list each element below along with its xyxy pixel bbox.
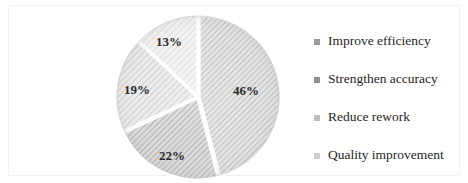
legend-item-improve-efficiency[interactable]: Improve efficiency xyxy=(314,32,464,50)
legend-swatch-icon xyxy=(314,39,320,45)
legend-label: Quality improvement xyxy=(328,148,444,162)
legend-item-reduce-rework[interactable]: Reduce rework xyxy=(314,108,464,126)
chart-legend: Improve efficiency Strengthen accuracy R… xyxy=(314,32,464,164)
legend-label: Strengthen accuracy xyxy=(328,72,438,86)
slice-label-quality-improvement: 13% xyxy=(156,34,182,50)
legend-item-quality-improvement[interactable]: Quality improvement xyxy=(314,146,464,164)
legend-label: Improve efficiency xyxy=(328,34,431,48)
legend-label: Reduce rework xyxy=(328,110,410,124)
legend-swatch-icon xyxy=(314,77,320,83)
pie-chart-area: 46% 22% 19% 13% xyxy=(9,6,299,183)
slice-label-strengthen-accuracy: 22% xyxy=(159,148,185,164)
slice-label-reduce-rework: 19% xyxy=(124,82,150,98)
chart-frame: 46% 22% 19% 13% Improve efficiency Stren… xyxy=(8,5,460,176)
legend-item-strengthen-accuracy[interactable]: Strengthen accuracy xyxy=(314,70,464,88)
legend-swatch-icon xyxy=(314,153,320,159)
slice-label-improve-efficiency: 46% xyxy=(233,83,259,99)
legend-swatch-icon xyxy=(314,115,320,121)
pie-chart-screenshot: 46% 22% 19% 13% Improve efficiency Stren… xyxy=(0,0,468,183)
